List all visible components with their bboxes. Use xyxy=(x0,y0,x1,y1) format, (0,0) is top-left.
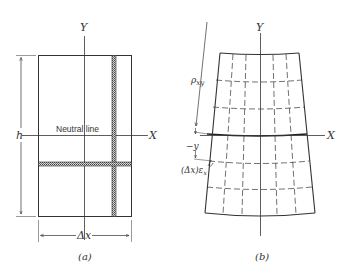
radius-label: ρxy xyxy=(190,75,205,87)
y-axis-label-a: Y xyxy=(80,21,89,34)
distance-label: −y xyxy=(186,141,200,151)
right-edge xyxy=(299,53,315,213)
neutral-line-label: Neutral line xyxy=(56,124,99,134)
beam-bending-diagram: Y X h Δx Neutral line (a) xyxy=(0,0,348,275)
figure-b-deformed-element: Y X ρxy −y (Δx)εx (b) xyxy=(181,21,336,262)
horizontal-fiber-strip xyxy=(39,162,132,166)
elongation-label: (Δx)εx xyxy=(181,165,207,177)
height-label: h xyxy=(16,129,23,142)
bottom-edge xyxy=(205,213,315,216)
dashed-vertical-gridlines xyxy=(223,54,296,215)
figure-a-undeformed-element: Y X h Δx Neutral line (a) xyxy=(16,21,158,262)
x-axis-label-a: X xyxy=(148,129,158,142)
caption-b: (b) xyxy=(255,251,269,262)
top-edge xyxy=(220,53,299,55)
x-axis-label-b: X xyxy=(326,129,336,142)
y-axis-label-b: Y xyxy=(256,21,265,34)
caption-a: (a) xyxy=(78,251,92,262)
vertical-fiber-strip xyxy=(112,56,116,217)
element-rectangle xyxy=(39,56,132,217)
left-edge xyxy=(205,53,220,213)
width-label: Δx xyxy=(76,229,92,242)
radius-of-curvature-line xyxy=(196,22,207,126)
